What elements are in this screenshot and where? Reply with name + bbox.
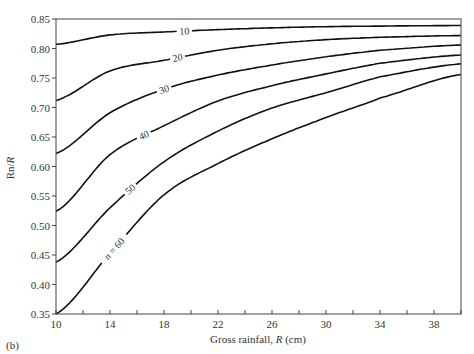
y-tick-label: 0.50 — [31, 220, 51, 232]
x-tick-label: 38 — [429, 318, 441, 330]
curve-n-10 — [56, 26, 461, 45]
y-tick-label: 0.60 — [31, 161, 51, 173]
y-tick-label: 0.35 — [31, 308, 51, 320]
curve-label-10: 10 — [176, 25, 192, 38]
y-axis-title: Rn/R — [4, 156, 16, 179]
y-tick-label: 0.65 — [31, 131, 51, 143]
curve-label-20: 20 — [169, 50, 186, 65]
svg-text:n = 60: n = 60 — [101, 235, 126, 261]
curve-labels: 1020304050n = 60 — [97, 25, 192, 267]
x-axis-title: Gross rainfall, R (cm) — [210, 333, 306, 346]
x-tick-label: 22 — [213, 318, 224, 330]
y-tick-label: 0.40 — [31, 279, 51, 291]
curve-label-30: 30 — [155, 81, 173, 97]
y-axis: 0.350.400.450.500.550.600.650.700.750.80… — [31, 13, 56, 320]
x-tick-label: 26 — [267, 318, 279, 330]
curve-label-40: 40 — [134, 127, 153, 144]
plot-frame — [56, 19, 461, 314]
x-tick-label: 18 — [159, 318, 171, 330]
curve-n-60 — [56, 75, 461, 315]
chart: 1020304050n = 60 1014182226303438 0.350.… — [0, 0, 474, 354]
svg-text:20: 20 — [172, 51, 184, 64]
x-tick-label: 14 — [105, 318, 117, 330]
y-tick-label: 0.70 — [31, 102, 51, 114]
x-tick-label: 10 — [51, 318, 63, 330]
svg-text:10: 10 — [179, 25, 189, 36]
x-tick-label: 34 — [375, 318, 387, 330]
y-tick-label: 0.85 — [31, 13, 51, 25]
curve-n-50 — [56, 64, 461, 262]
x-axis: 1014182226303438 — [51, 310, 462, 330]
y-tick-label: 0.75 — [31, 72, 51, 84]
curve-n-40 — [56, 55, 461, 211]
curves — [56, 26, 461, 315]
y-tick-label: 0.55 — [31, 190, 51, 202]
y-tick-label: 0.45 — [31, 249, 51, 261]
y-tick-label: 0.80 — [31, 43, 51, 55]
curve-label-60: n = 60 — [97, 231, 131, 267]
x-tick-label: 30 — [321, 318, 333, 330]
panel-label: (b) — [6, 339, 19, 352]
